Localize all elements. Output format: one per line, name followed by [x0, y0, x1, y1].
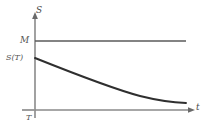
- x-axis-name-label: t: [196, 103, 200, 112]
- chart-figure: S t M S(T) T: [0, 0, 210, 131]
- initial-value-label: S(T): [6, 54, 23, 62]
- x-axis: [22, 107, 195, 112]
- asymptote-value-label: M: [20, 36, 29, 45]
- x-axis-arrowhead: [188, 107, 195, 112]
- y-axis: [32, 12, 38, 118]
- chart-plot-area: [0, 0, 210, 131]
- origin-time-label: T: [26, 114, 31, 122]
- decay-curve: [35, 58, 186, 103]
- y-axis-name-label: S: [36, 6, 42, 15]
